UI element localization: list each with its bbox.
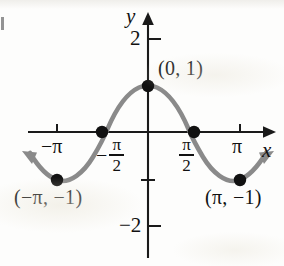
fraction-denominator: 2: [182, 157, 191, 174]
fraction-numerator: π: [110, 136, 123, 153]
fraction-denominator: 2: [113, 157, 122, 174]
x-tick-label-minus-pi: −π: [41, 136, 62, 156]
scan-edge-mark: [1, 17, 4, 30]
point-label-minus-pi: (−π, −1): [14, 187, 82, 207]
data-point-origin: [142, 80, 154, 92]
plot-canvas: [0, 0, 284, 266]
point-label-origin-one: (0, 1): [158, 58, 203, 78]
data-point-pi: [234, 174, 246, 186]
cosine-graph-figure: y x 2 −2 −π π − π 2 π 2 (0, 1) (−π, −1) …: [0, 0, 284, 266]
minus-sign-glyph: −: [96, 145, 107, 165]
x-tick-label-half-pi: π 2: [179, 136, 194, 175]
point-label-pi: (π, −1): [205, 187, 262, 207]
x-tick-label-minus-half-pi: − π 2: [96, 136, 124, 175]
y-tick-label-2: 2: [130, 28, 141, 49]
fraction-minus-half-pi: π 2: [109, 136, 124, 175]
x-axis-arrowhead: [263, 126, 276, 138]
x-axis-label: x: [262, 140, 271, 161]
y-axis-label: y: [126, 6, 135, 27]
y-axis-arrowhead: [142, 12, 154, 25]
data-point-minus-pi: [51, 174, 63, 186]
fraction-half-pi: π 2: [179, 136, 194, 175]
x-tick-label-pi: π: [232, 136, 242, 156]
y-tick-label-minus-2: −2: [119, 215, 141, 236]
fraction-numerator: π: [180, 136, 193, 153]
